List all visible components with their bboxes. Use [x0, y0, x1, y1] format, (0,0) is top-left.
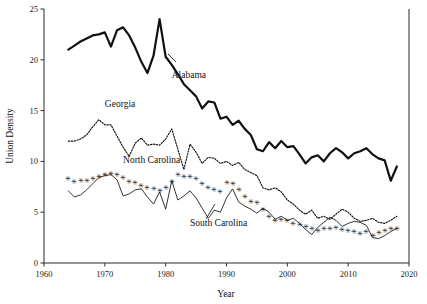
star-marker: ✳ — [217, 188, 223, 196]
annotation-alabama: Alabama — [172, 70, 207, 80]
y-tick-label: 20 — [30, 55, 39, 65]
x-tick-label: 1960 — [36, 269, 53, 279]
x-tick-label: 1980 — [157, 269, 174, 279]
x-tick-label: 2010 — [340, 269, 357, 279]
series-markers-north-carolina: ✳✳✳✳✳✳✳✳✳✳✳✳✳✳✳✳✳✳✳✳✳✳✳✳✳✳✳✳✳✳✳✳✳✳✳✳✳✳✳✳… — [65, 170, 400, 240]
y-axis-title: Union Density — [5, 108, 15, 164]
y-tick-label: 10 — [30, 156, 39, 166]
series-annotations: AlabamaGeorgiaNorth CarolinaSouth Caroli… — [105, 54, 248, 228]
x-tick-label: 2000 — [279, 269, 296, 279]
y-tick-label: 0 — [34, 258, 38, 268]
y-tick-label: 15 — [30, 106, 39, 116]
x-tick-label: 2020 — [401, 269, 418, 279]
data-series: ✳✳✳✳✳✳✳✳✳✳✳✳✳✳✳✳✳✳✳✳✳✳✳✳✳✳✳✳✳✳✳✳✳✳✳✳✳✳✳✳… — [65, 19, 400, 240]
y-tick-label: 25 — [30, 4, 39, 14]
x-tick-label: 1970 — [96, 269, 113, 279]
annotation-georgia: Georgia — [105, 99, 136, 109]
union-density-chart: ✳✳✳✳✳✳✳✳✳✳✳✳✳✳✳✳✳✳✳✳✳✳✳✳✳✳✳✳✳✳✳✳✳✳✳✳✳✳✳✳… — [0, 0, 427, 304]
x-axis-title: Year — [217, 289, 235, 299]
y-tick-label: 5 — [34, 207, 38, 217]
x-tick-label: 1990 — [218, 269, 235, 279]
annotation-north-carolina: North Carolina — [123, 155, 181, 165]
annotation-south-carolina: South Carolina — [190, 218, 248, 228]
chart-canvas: ✳✳✳✳✳✳✳✳✳✳✳✳✳✳✳✳✳✳✳✳✳✳✳✳✳✳✳✳✳✳✳✳✳✳✳✳✳✳✳✳… — [0, 0, 427, 304]
